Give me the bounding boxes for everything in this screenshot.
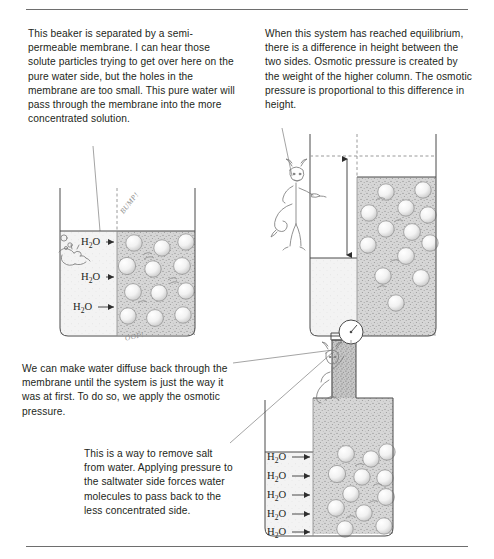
h2o-label-1-1: H2O [81, 236, 100, 250]
piston-shaft-fill [332, 340, 356, 398]
figure-beaker-two [271, 128, 438, 336]
illustration-artwork [0, 0, 494, 559]
pressure-gauge-icon [339, 320, 363, 344]
figure-beaker-three [230, 320, 395, 537]
h2o-label-3-5: H2O [267, 526, 286, 540]
h2o-label-3-3: H2O [267, 489, 286, 503]
solution-fill-3 [313, 398, 393, 534]
imp-pointing-icon [271, 159, 326, 250]
h2o-label-3-4: H2O [267, 508, 286, 522]
h2o-label-3-2: H2O [267, 470, 286, 484]
leader-line-intro [93, 146, 101, 243]
h2o-label-3-1: H2O [267, 451, 286, 465]
h2o-label-1-3: H2O [73, 301, 92, 315]
h2o-label-1-2: H2O [81, 271, 100, 285]
illustration-page: This beaker is separated by a semi-perme… [0, 0, 494, 559]
solution-fill-2 [357, 177, 436, 336]
leader-line-reverse [233, 350, 333, 363]
leader-line-equilibrium [282, 128, 292, 176]
